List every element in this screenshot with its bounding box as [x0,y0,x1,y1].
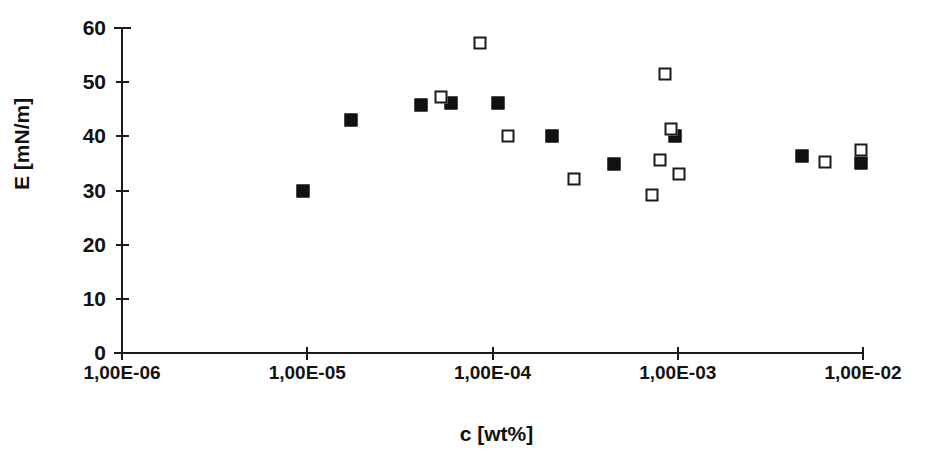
data-point-open-squares-1 [474,36,487,49]
data-point-open-squares-4 [646,189,659,202]
x-tick-label-2: 1,00E-04 [454,362,531,384]
y-tick-40 [116,135,129,137]
y-axis-title: E [mN/m] [10,98,34,190]
x-tick-label-0: 1,00E-06 [83,362,160,384]
plot-area [122,28,863,353]
data-point-filled-squares-1 [345,113,358,126]
x-axis-title-text: c [wt%] [460,422,534,446]
x-tick-4 [862,347,864,360]
data-point-open-squares-5 [658,67,671,80]
data-point-open-squares-6 [653,154,666,167]
y-tick-20 [116,244,129,246]
data-point-filled-squares-0 [297,184,310,197]
data-point-filled-squares-4 [491,96,504,109]
x-axis-title: c [wt%] [0,422,933,446]
x-tick-3 [677,347,679,360]
y-tick-10 [116,298,129,300]
data-point-open-squares-9 [818,155,831,168]
y-tick-label-10: 10 [83,287,106,311]
y-tick-label-30: 30 [83,179,106,203]
data-point-open-squares-10 [855,144,868,157]
y-tick-30 [116,190,129,192]
y-tick-label-40: 40 [83,124,106,148]
x-tick-0 [121,347,123,360]
y-tick-60 [114,27,131,29]
data-point-filled-squares-8 [796,149,809,162]
data-point-open-squares-3 [567,172,580,185]
data-point-open-squares-7 [665,122,678,135]
data-point-open-squares-8 [673,167,686,180]
y-tick-50 [116,81,129,83]
scatter-chart-figure: E [mN/m] 0102030405060 1,00E-061,00E-051… [0,0,933,467]
data-point-open-squares-0 [435,90,448,103]
data-point-filled-squares-9 [855,156,868,169]
data-point-filled-squares-2 [414,99,427,112]
y-tick-label-20: 20 [83,233,106,257]
y-tick-label-50: 50 [83,70,106,94]
x-tick-label-1: 1,00E-05 [269,362,346,384]
data-point-open-squares-2 [502,129,515,142]
data-point-filled-squares-5 [546,130,559,143]
y-tick-label-60: 60 [83,16,106,40]
x-tick-1 [306,347,308,360]
data-point-filled-squares-6 [607,157,620,170]
x-tick-2 [492,347,494,360]
x-tick-label-4: 1,00E-02 [824,362,901,384]
x-tick-label-3: 1,00E-03 [639,362,716,384]
